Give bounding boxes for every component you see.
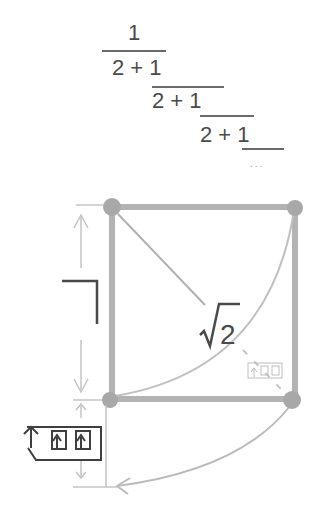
sqrt2-label: 2: [200, 304, 240, 350]
square-diagram: 2: [0, 0, 322, 521]
svg-text:2: 2: [220, 319, 236, 350]
side-length-glyph: [62, 281, 97, 324]
arc-rotation: [117, 406, 290, 486]
diagonal-line-dashed: [243, 350, 282, 390]
glyph-box: [24, 427, 101, 460]
diagonal-line: [118, 214, 205, 305]
small-glyph-box: [248, 363, 282, 378]
